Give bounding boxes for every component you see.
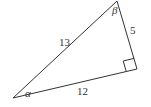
- vertical-leg-label: 5: [130, 24, 136, 36]
- alpha-angle-label: α: [25, 87, 31, 99]
- hypotenuse-label: 13: [59, 36, 71, 48]
- right-angle-marker: [123, 58, 134, 71]
- horizontal-leg-label: 12: [77, 85, 88, 97]
- triangle-shape: [13, 1, 137, 98]
- beta-angle-label: β: [111, 4, 118, 16]
- triangle-diagram: 13 5 12 α β: [0, 0, 151, 107]
